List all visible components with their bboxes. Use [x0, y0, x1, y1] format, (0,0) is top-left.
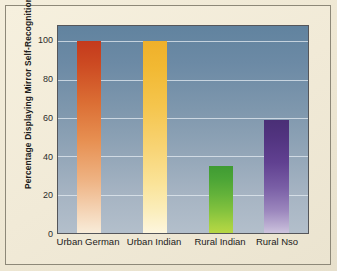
y-tick-100: 100 — [38, 35, 53, 45]
y-tick-0: 0 — [48, 229, 53, 239]
y-axis-tick-labels: 0 20 40 60 80 100 — [24, 25, 53, 234]
bar-urban-german — [77, 41, 101, 233]
y-tick-60: 60 — [43, 113, 53, 123]
x-tick-rural-nso: Rural Nso — [256, 236, 298, 247]
y-tick-40: 40 — [43, 152, 53, 162]
x-axis-tick-labels: Urban German Urban Indian Rural Indian R… — [57, 236, 309, 254]
x-tick-rural-indian: Rural Indian — [194, 236, 245, 247]
y-tick-20: 20 — [43, 190, 53, 200]
plot-area — [57, 25, 309, 234]
bar-rural-indian — [209, 166, 233, 233]
y-tick-80: 80 — [43, 74, 53, 84]
x-tick-urban-indian: Urban Indian — [127, 236, 181, 247]
bar-urban-indian — [143, 41, 167, 233]
bar-chart-figure: Percentage Displaying Mirror Self-Recogn… — [0, 0, 337, 271]
bar-rural-nso — [264, 120, 289, 233]
x-tick-urban-german: Urban German — [57, 236, 120, 247]
